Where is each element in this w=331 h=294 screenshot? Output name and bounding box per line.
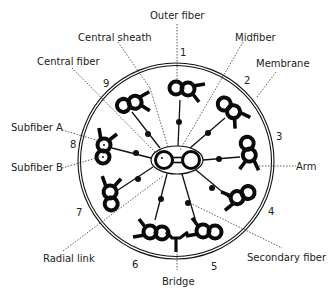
axoneme-diagram: Outer fiber Central sheath Midfiber Memb… xyxy=(0,0,331,294)
doublet-7 xyxy=(100,173,126,212)
doublet-number-8: 8 xyxy=(70,139,76,150)
doublet-2 xyxy=(211,95,252,132)
label-central-fiber: Central fiber xyxy=(37,56,100,67)
label-radial-link: Radial link xyxy=(43,253,95,264)
doublet-number-3: 3 xyxy=(276,131,282,142)
doublet-4 xyxy=(216,177,257,213)
central-sheath xyxy=(151,146,203,174)
label-arm: Arm xyxy=(296,161,317,172)
doublet-number-4: 4 xyxy=(268,206,274,217)
label-subfiber-a: Subfiber A xyxy=(11,122,63,133)
doublet-number-6: 6 xyxy=(132,259,138,270)
doublet-6 xyxy=(133,219,169,240)
label-secondary-fiber: Secondary fiber xyxy=(247,252,327,263)
doublet-number-7: 7 xyxy=(76,207,82,218)
label-membrane: Membrane xyxy=(256,58,310,69)
label-central-sheath: Central sheath xyxy=(78,32,152,43)
doublet-3 xyxy=(232,135,261,175)
doublet-5 xyxy=(186,218,222,239)
central-fibers xyxy=(156,152,200,169)
label-midfiber: Midfiber xyxy=(235,32,277,43)
doublet-1 xyxy=(170,82,206,103)
doublet-number-1: 1 xyxy=(180,47,186,58)
doublet-number-2: 2 xyxy=(244,75,250,86)
doublet-8 xyxy=(97,128,118,164)
label-bridge: Bridge xyxy=(162,276,195,287)
doublet-number-5: 5 xyxy=(211,261,217,272)
doublet-number-9: 9 xyxy=(103,78,109,89)
label-outer-fiber: Outer fiber xyxy=(150,10,205,21)
bridge xyxy=(166,232,188,252)
radial-links xyxy=(112,100,240,222)
label-subfiber-b: Subfiber B xyxy=(11,162,63,173)
